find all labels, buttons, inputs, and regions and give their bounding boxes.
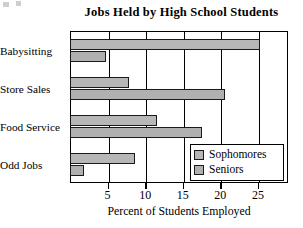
chart-legend: SophomoresSeniors: [190, 144, 284, 181]
bar-odd-jobs-seniors: [70, 165, 84, 176]
bar-babysitting-sophomores: [70, 39, 260, 50]
scan-artifact: [16, 1, 21, 6]
bar-babysitting-seniors: [70, 51, 106, 62]
bar-chart: Jobs Held by High School Students Babysi…: [0, 0, 303, 228]
legend-swatch-icon: [194, 150, 204, 160]
legend-swatch-icon: [194, 165, 204, 175]
legend-label: Seniors: [209, 163, 244, 176]
scan-artifact: [3, 2, 9, 7]
bar-food-service-sophomores: [70, 115, 157, 126]
x-tick-label: 25: [243, 188, 273, 202]
bar-odd-jobs-sophomores: [70, 153, 135, 164]
bar-food-service-seniors: [70, 127, 202, 138]
legend-item-sophomores: Sophomores: [194, 147, 280, 162]
bar-store-sales-seniors: [70, 89, 225, 100]
category-label-odd-jobs: Odd Jobs: [0, 159, 68, 172]
x-tick-label: 10: [130, 188, 160, 202]
category-label-store-sales: Store Sales: [0, 83, 68, 96]
category-label-babysitting: Babysitting: [0, 45, 68, 58]
x-tick-label: 15: [168, 188, 198, 202]
x-tick-label: 20: [205, 188, 235, 202]
x-tick-label: 5: [93, 188, 123, 202]
legend-label: Sophomores: [209, 148, 267, 161]
chart-title: Jobs Held by High School Students: [60, 5, 303, 20]
gridline: [184, 32, 185, 182]
bar-store-sales-sophomores: [70, 77, 129, 88]
gridline: [146, 32, 147, 182]
category-label-food-service: Food Service: [0, 121, 68, 134]
x-axis-title: Percent of Students Employed: [70, 204, 288, 218]
legend-item-seniors: Seniors: [194, 162, 280, 177]
